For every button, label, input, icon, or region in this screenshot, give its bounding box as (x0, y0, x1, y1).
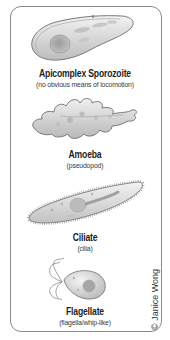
organism-title: Ciliate (12, 232, 158, 243)
organism-title: Apicomplex Sporozoite (12, 68, 158, 79)
copyright-credit: © Janice Wong (150, 269, 160, 330)
flagellate-illustration-icon (0, 256, 170, 306)
amoeba-illustration-icon (0, 88, 170, 148)
organism-locomotion: (cilia) (12, 244, 158, 253)
organism-title: Amoeba (12, 149, 158, 160)
organism-locomotion: (flagella/whip-like) (12, 318, 158, 327)
ciliate-illustration-icon (0, 178, 170, 228)
organism-locomotion: (pseudopod) (12, 161, 158, 170)
organism-title: Flagellate (12, 306, 158, 317)
